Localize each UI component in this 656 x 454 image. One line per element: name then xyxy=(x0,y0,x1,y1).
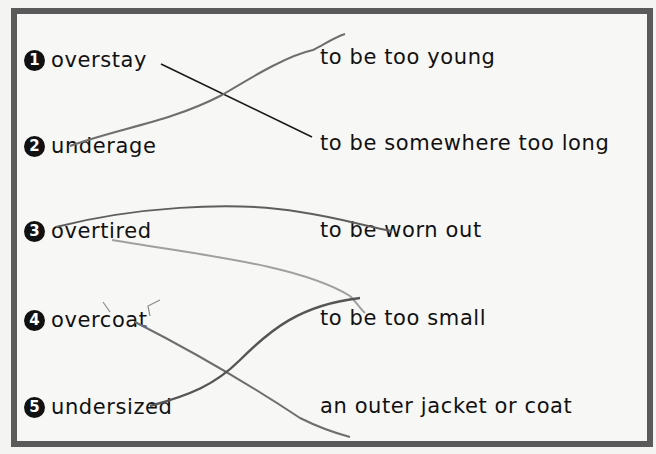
term-label: overcoat xyxy=(51,308,148,332)
term-label: overtired xyxy=(51,219,152,243)
term-row-1[interactable]: 1 overstay xyxy=(24,47,147,73)
definition-3[interactable]: to be worn out xyxy=(320,217,482,243)
number-badge-icon: 1 xyxy=(24,50,45,71)
term-label: overstay xyxy=(51,48,147,72)
number-badge-icon: 4 xyxy=(24,310,45,331)
definition-4[interactable]: to be too small xyxy=(320,305,486,331)
term-row-3[interactable]: 3 overtired xyxy=(24,218,152,244)
number-badge-icon: 3 xyxy=(24,221,45,242)
term-label: underage xyxy=(51,134,156,158)
number-badge-icon: 2 xyxy=(24,136,45,157)
term-row-2[interactable]: 2 underage xyxy=(24,133,156,159)
term-row-4[interactable]: 4 overcoat xyxy=(24,307,148,333)
number-badge-icon: 5 xyxy=(24,397,45,418)
term-row-5[interactable]: 5 undersized xyxy=(24,394,173,420)
term-label: undersized xyxy=(51,395,173,419)
definition-5[interactable]: an outer jacket or coat xyxy=(320,393,572,419)
definition-2[interactable]: to be somewhere too long xyxy=(320,130,609,156)
definition-1[interactable]: to be too young xyxy=(320,44,496,70)
